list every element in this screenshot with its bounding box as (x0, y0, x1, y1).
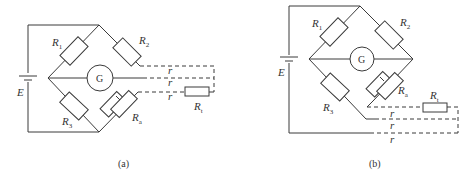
label-g: G (96, 73, 103, 84)
label-r-line: r (168, 64, 173, 76)
label-r-line: r (390, 133, 395, 145)
label-e: E (16, 86, 24, 98)
caption-b: (b) (369, 158, 381, 170)
diagram-a: R1 R2 R3 Ra Rt E G r r r (a) (16, 25, 214, 170)
svg-text:R1: R1 (311, 17, 323, 32)
resistor-rt (185, 87, 209, 96)
svg-text:Rt: Rt (429, 89, 439, 104)
svg-text:R2: R2 (138, 34, 150, 49)
svg-text:R1: R1 (51, 36, 63, 51)
caption-a: (a) (118, 158, 129, 170)
resistor-r2 (113, 38, 141, 66)
label-g: G (358, 54, 365, 65)
diagram-b: R1 R2 R3 Ra Rt E G r r r (b) (277, 6, 458, 170)
svg-text:R3: R3 (61, 115, 73, 130)
svg-text:Ra: Ra (397, 84, 409, 99)
label-r-line: r (168, 90, 173, 102)
resistor-r1 (320, 18, 348, 46)
label-r-line: r (390, 107, 395, 119)
label-e: E (277, 66, 285, 78)
svg-text:Ra: Ra (131, 111, 143, 126)
svg-text:R3: R3 (322, 101, 334, 116)
svg-text:Rt: Rt (193, 100, 203, 115)
label-r-line: r (168, 76, 173, 88)
bridge-circuit-figure: R1 R2 R3 Ra Rt E G r r r (a) (0, 0, 473, 176)
label-r-line: r (390, 119, 395, 131)
svg-text:R2: R2 (399, 16, 411, 31)
resistor-rt (423, 103, 447, 112)
